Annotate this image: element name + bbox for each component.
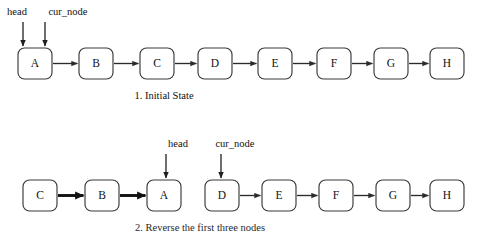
pointer-label-head: head: [168, 138, 189, 149]
pointer-label-head: head: [7, 6, 28, 17]
row-caption: 2. Reverse the first three nodes: [135, 222, 265, 233]
list-node-label: C: [153, 57, 161, 69]
list-node-label: E: [275, 189, 282, 201]
list-node-label: D: [218, 189, 226, 201]
list-node-label: C: [36, 189, 44, 201]
list-node-label: F: [333, 189, 339, 201]
pointer-label-cur-node: cur_node: [48, 6, 87, 17]
row-caption: 1. Initial State: [134, 90, 194, 101]
list-node-label: G: [387, 57, 395, 69]
list-node-label: F: [331, 57, 337, 69]
diagram-canvas: ABCDEFGHheadcur_node1. Initial StateCBAD…: [0, 0, 483, 233]
linked-list-diagram: ABCDEFGHheadcur_node1. Initial StateCBAD…: [0, 0, 483, 233]
list-node-label: E: [271, 57, 278, 69]
list-node-label: A: [31, 57, 40, 69]
list-node-label: B: [98, 189, 106, 201]
diagram-row: CBADEFGHheadcur_node2. Reverse the first…: [23, 138, 464, 233]
list-node-label: B: [92, 57, 100, 69]
list-node-label: A: [160, 189, 169, 201]
list-node-label: H: [443, 57, 451, 69]
pointer-label-cur-node: cur_node: [215, 138, 254, 149]
list-node-label: D: [211, 57, 219, 69]
diagram-row: ABCDEFGHheadcur_node1. Initial State: [7, 6, 464, 101]
list-node-label: G: [389, 189, 397, 201]
list-node-label: H: [443, 189, 451, 201]
